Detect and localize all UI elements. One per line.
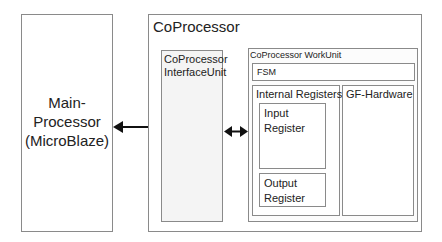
interface-unit-label: CoProcessor InterfaceUnit — [164, 53, 228, 79]
input-register-label-line: Register — [264, 121, 305, 136]
coprocessor-title: CoProcessor — [153, 18, 240, 35]
output-register-block: Output Register — [259, 173, 326, 207]
input-register-label: Input Register — [264, 106, 305, 136]
bidirectional-arrow-icon — [224, 126, 248, 137]
internal-registers-title: Internal Registers — [256, 88, 342, 100]
input-register-block: Input Register — [259, 103, 326, 169]
main-processor-label: Main- Processor (MicroBlaze) — [22, 93, 112, 150]
interface-unit-block: CoProcessor InterfaceUnit — [161, 50, 223, 222]
interface-unit-label-line: CoProcessor — [164, 53, 228, 66]
main-processor-block: Main- Processor (MicroBlaze) — [21, 14, 113, 232]
main-processor-label-line: Main- — [22, 93, 112, 112]
interface-unit-label-line: InterfaceUnit — [164, 66, 228, 79]
work-unit-title: CoProcessor WorkUnit — [250, 50, 341, 60]
output-register-label: Output Register — [264, 176, 305, 206]
output-register-label-line: Register — [264, 191, 305, 206]
work-unit-block: CoProcessor WorkUnit FSM Internal Regist… — [248, 48, 418, 222]
gf-hardware-title: GF-Hardware — [346, 88, 413, 100]
fsm-label: FSM — [257, 67, 276, 77]
main-processor-label-line: (MicroBlaze) — [22, 131, 112, 150]
input-register-label-line: Input — [264, 106, 305, 121]
output-register-label-line: Output — [264, 176, 305, 191]
main-processor-label-line: Processor — [22, 112, 112, 131]
fsm-block: FSM — [252, 63, 415, 81]
internal-registers-block: Internal Registers Input Register Output… — [252, 85, 340, 216]
gf-hardware-block: GF-Hardware — [342, 85, 414, 216]
coprocessor-block: CoProcessor CoProcessor InterfaceUnit Co… — [148, 14, 422, 232]
